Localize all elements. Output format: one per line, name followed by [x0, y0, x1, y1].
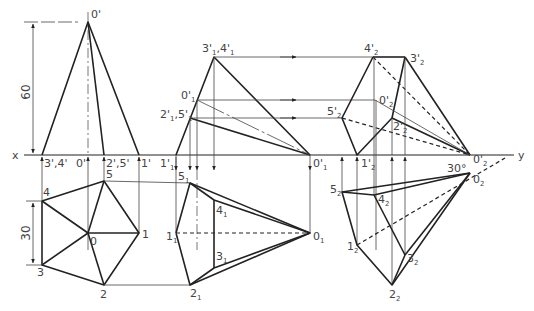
label-aux2-plan-5: 52 [330, 183, 341, 198]
label-4-top: 4 [43, 186, 50, 199]
label-0-front: 0' [76, 157, 86, 170]
front-view: 60 0' 3',4' 0' 2',5' 1' [19, 8, 151, 170]
label-2-top: 2 [100, 288, 107, 301]
label-aux1-plan-5: 51 [178, 170, 189, 185]
label-apex-front: 0' [91, 8, 101, 21]
label-aux1-1: 1'1 [160, 157, 175, 172]
label-aux2-plan-4: 42 [378, 193, 389, 208]
xy-axis: x y [12, 149, 525, 162]
label-1-front: 1' [141, 157, 151, 170]
label-aux1-apex: 0'1 [313, 157, 328, 172]
label-3-top: 3 [37, 266, 44, 279]
label-aux1-plan-2: 21 [190, 287, 201, 302]
label-aux2-3: 3'2 [410, 52, 425, 67]
aux1-elevation: 3'1,4'1 0'1 2'1,5'1 1'1 0'1 [160, 42, 375, 172]
label-aux1-plan-0: 01 [313, 230, 324, 245]
label-aux1-plan-4: 41 [216, 204, 227, 219]
label-5-top: 5 [106, 168, 113, 181]
label-0-top: 0 [90, 235, 97, 248]
label-aux2-0top: 0'2 [379, 94, 394, 109]
label-aux2-1: 1'2 [361, 157, 376, 172]
top-view: 30 0 1 2 3 4 5 [19, 168, 149, 301]
label-34-front: 3',4' [44, 157, 68, 170]
label-aux1-25: 2'1,5'1 [160, 108, 193, 123]
label-aux2-plan-2: 22 [389, 288, 400, 303]
dimension-height: 60 [19, 84, 33, 99]
axis-label-x: x [12, 149, 19, 162]
label-aux2-5: 5'2 [327, 105, 342, 120]
label-aux1-plan-3: 31 [216, 250, 227, 265]
label-aux1-0-top: 0'1 [181, 89, 196, 104]
angle-label: 30° [447, 162, 467, 175]
label-aux2-plan-0: 02 [473, 173, 484, 188]
label-aux2-4: 4'2 [364, 42, 379, 57]
label-aux1-34: 3'1,4'1 [202, 42, 235, 57]
dimension-edge: 30 [19, 225, 33, 240]
projection-drawing: x y 60 0' 3',4' 0' 2',5' 1' 30 0 [0, 0, 534, 311]
axis-label-y: y [518, 149, 525, 162]
aux2-plan: 52 42 02 12 32 22 [330, 173, 484, 303]
aux2-elevation: 4'2 3'2 0'2 5'2 2'2 1'2 0'2 [327, 42, 488, 172]
label-1-top: 1 [142, 228, 149, 241]
aux1-plan: 51 41 11 31 21 01 [166, 170, 324, 302]
label-aux2-plan-3: 32 [407, 252, 418, 267]
